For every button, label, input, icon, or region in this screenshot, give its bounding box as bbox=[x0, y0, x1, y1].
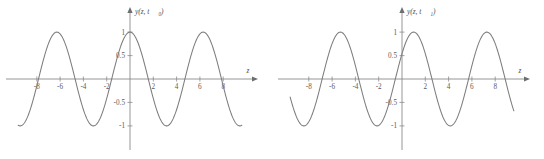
x-tick-label-right-7: 8 bbox=[493, 83, 497, 91]
x-tick-label-right-3: -2 bbox=[376, 83, 382, 91]
x-tick-label-right-2: -4 bbox=[352, 83, 358, 91]
x-tick-label-left-5: 4 bbox=[175, 83, 179, 91]
y-axis-title-left: y(z, t 0 ) bbox=[134, 7, 164, 17]
x-axis-title-right: z bbox=[518, 66, 522, 75]
y-tick-label-left-3: -1 bbox=[119, 122, 125, 130]
y-tick-label-right-2: -0.5 bbox=[386, 99, 398, 107]
y-axis-title-left-close: ) bbox=[160, 7, 164, 16]
y-axis-arrow-right bbox=[399, 7, 404, 13]
y-axis-title-left-base: y(z, t bbox=[134, 7, 150, 16]
y-tick-label-left-2: -0.5 bbox=[114, 99, 126, 107]
x-axis-arrow-left bbox=[252, 76, 258, 81]
plot-panel-right: -8 -6 -4 -2 2 4 6 8 1 0.5 -0.5 -1 z y(z,… bbox=[272, 0, 544, 159]
x-tick-label-right-4: 2 bbox=[424, 83, 428, 91]
y-tick-label-right-0: 1 bbox=[393, 29, 397, 37]
y-axis-title-right-close: ) bbox=[432, 7, 436, 16]
x-tick-label-left-6: 6 bbox=[198, 83, 202, 91]
x-tick-label-left-1: -6 bbox=[57, 83, 63, 91]
y-tick-label-right-1: 0.5 bbox=[388, 52, 397, 60]
y-axis-arrow-left bbox=[127, 7, 132, 13]
x-tick-label-left-2: -4 bbox=[80, 83, 86, 91]
x-tick-label-right-6: 6 bbox=[470, 83, 474, 91]
x-axis-arrow-right bbox=[524, 76, 530, 81]
x-tick-label-right-0: -8 bbox=[306, 83, 312, 91]
y-axis-title-right: y(z, t 1 ) bbox=[406, 7, 436, 17]
x-tick-label-left-4: 2 bbox=[152, 83, 156, 91]
plot-panel-left: -8 -6 -4 -2 2 4 6 8 1 0.5 -0.5 -1 z y(z,… bbox=[0, 0, 272, 159]
wave-plot-t1-svg: -8 -6 -4 -2 2 4 6 8 1 0.5 -0.5 -1 z y(z,… bbox=[272, 0, 544, 159]
wave-plot-t0-svg: -8 -6 -4 -2 2 4 6 8 1 0.5 -0.5 -1 z y(z,… bbox=[0, 0, 272, 159]
x-tick-label-right-5: 4 bbox=[447, 83, 451, 91]
y-axis-title-right-base: y(z, t bbox=[406, 7, 422, 16]
y-tick-label-left-0: 1 bbox=[121, 29, 125, 37]
two-panel-wave-figure: -8 -6 -4 -2 2 4 6 8 1 0.5 -0.5 -1 z y(z,… bbox=[0, 0, 544, 159]
y-tick-label-right-3: -1 bbox=[391, 122, 397, 130]
x-tick-label-right-1: -6 bbox=[329, 83, 335, 91]
x-axis-title-left: z bbox=[246, 66, 250, 75]
